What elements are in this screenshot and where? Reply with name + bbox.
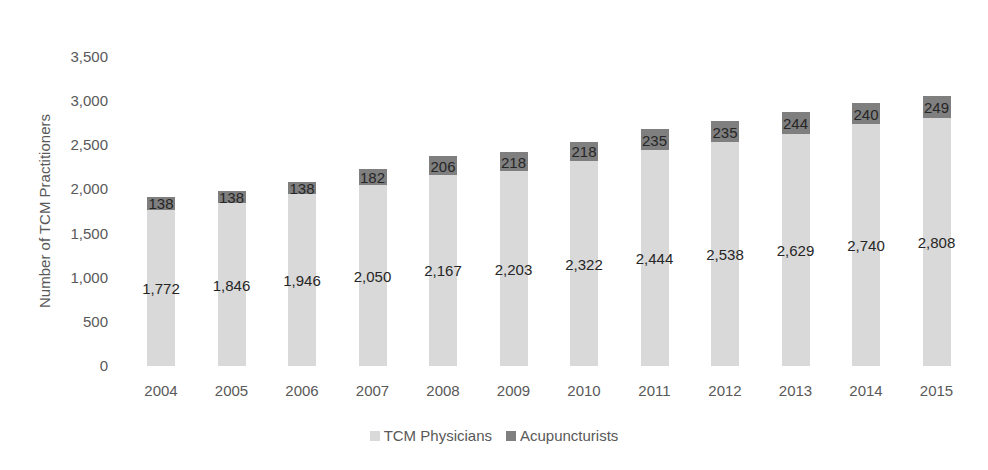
tcm-physicians-data-label: 2,629 — [777, 241, 815, 258]
stacked-bar-chart: Number of TCM Practitioners 05001,0001,5… — [0, 0, 988, 470]
x-tick-label: 2004 — [144, 382, 177, 399]
y-tick-label: 1,500 — [48, 225, 108, 242]
bar-2010[interactable] — [570, 142, 598, 366]
bar-2009[interactable] — [500, 152, 528, 366]
bar-2015[interactable] — [923, 96, 951, 366]
tcm-physicians-data-label: 2,538 — [706, 245, 744, 262]
x-tick-label: 2011 — [638, 382, 670, 399]
x-tick-label: 2009 — [497, 382, 530, 399]
acupuncturists-data-label: 206 — [430, 157, 455, 174]
x-tick-label: 2014 — [849, 382, 882, 399]
tcm-physicians-data-label: 1,772 — [142, 279, 180, 296]
tcm-physicians-data-label: 2,322 — [565, 255, 603, 272]
x-tick-label: 2007 — [356, 382, 389, 399]
x-tick-label: 2005 — [215, 382, 248, 399]
x-tick-label: 2008 — [426, 382, 459, 399]
acupuncturists-data-label: 235 — [642, 131, 667, 148]
acupuncturists-data-label: 249 — [924, 99, 949, 116]
legend-label: TCM Physicians — [384, 427, 492, 444]
tcm-physicians-data-label: 2,444 — [636, 250, 674, 267]
acupuncturists-data-label: 138 — [148, 195, 173, 212]
y-tick-label: 3,500 — [48, 48, 108, 65]
acupuncturists-data-label: 138 — [289, 180, 314, 197]
y-tick-label: 2,000 — [48, 180, 108, 197]
tcm-physicians-data-label: 2,808 — [918, 234, 956, 251]
x-tick-label: 2010 — [567, 382, 600, 399]
tcm-physicians-data-label: 1,946 — [283, 272, 321, 289]
acupuncturists-data-label: 182 — [360, 168, 385, 185]
x-tick-label: 2012 — [708, 382, 741, 399]
tcm-physicians-data-label: 2,167 — [424, 262, 462, 279]
bar-2012[interactable] — [711, 121, 739, 366]
tcm-physicians-data-label: 2,203 — [495, 260, 533, 277]
acupuncturists-data-label: 240 — [853, 105, 878, 122]
y-tick-label: 3,000 — [48, 92, 108, 109]
acupuncturists-data-label: 235 — [712, 123, 737, 140]
y-tick-label: 1,000 — [48, 269, 108, 286]
acupuncturists-data-label: 244 — [783, 115, 808, 132]
acupuncturists-swatch-icon — [506, 431, 516, 441]
x-tick-label: 2006 — [285, 382, 318, 399]
tcm-physicians-data-label: 1,846 — [213, 276, 251, 293]
y-tick-label: 2,500 — [48, 136, 108, 153]
bar-2011[interactable] — [641, 129, 669, 366]
legend: TCM Physicians Acupuncturists — [0, 427, 988, 444]
y-tick-label: 0 — [48, 357, 108, 374]
acupuncturists-data-label: 138 — [219, 188, 244, 205]
legend-label: Acupuncturists — [520, 427, 618, 444]
acupuncturists-data-label: 218 — [501, 153, 526, 170]
tcm-physicians-swatch-icon — [370, 431, 380, 441]
tcm-physicians-data-label: 2,050 — [354, 267, 392, 284]
legend-item-acupuncturists[interactable]: Acupuncturists — [506, 427, 618, 444]
legend-item-tcm-physicians[interactable]: TCM Physicians — [370, 427, 492, 444]
acupuncturists-data-label: 218 — [571, 143, 596, 160]
bar-2014[interactable] — [852, 103, 880, 366]
x-tick-label: 2015 — [920, 382, 953, 399]
y-tick-label: 500 — [48, 313, 108, 330]
x-tick-label: 2013 — [779, 382, 812, 399]
bar-2013[interactable] — [782, 112, 810, 366]
tcm-physicians-data-label: 2,740 — [847, 237, 885, 254]
